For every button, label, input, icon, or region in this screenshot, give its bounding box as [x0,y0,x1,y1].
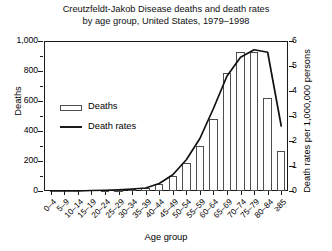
legend-line-death-rates [60,126,82,128]
y-tick-label-right: 6 [292,35,308,45]
y-tick-label-left: 200 [0,155,38,165]
y-tick-mark-left [38,161,43,162]
x-tick-mark [213,191,214,195]
bar [223,73,231,192]
x-tick-mark [64,191,65,195]
bar [236,52,244,192]
legend-swatch-deaths [60,105,82,111]
y-tick-mark-right [289,66,294,67]
y-tick-mark-left-minor [40,56,43,57]
bar [128,189,136,191]
y-tick-mark-left [38,101,43,102]
y-tick-label-left: 0 [0,185,38,195]
y-tick-mark-right [289,116,294,117]
legend-label-death-rates: Death rates [88,121,136,131]
chart-title-line-1: Creutzfeldt-Jakob Disease deaths and dea… [0,3,332,15]
bar [101,190,109,192]
y-tick-label-left: 800 [0,65,38,75]
y-tick-mark-right [289,141,294,142]
y-tick-label-right: 1 [292,160,308,170]
x-tick-mark [51,191,52,195]
bar [250,52,258,192]
y-tick-label-left: 600 [0,95,38,105]
y-tick-mark-left-minor [40,176,43,177]
y-tick-label-right: 3 [292,110,308,120]
chart-title-line-2: by age group, United States, 1979–1998 [0,15,332,27]
y-tick-mark-right [289,41,294,42]
bar [182,163,190,192]
x-tick-mark [78,191,79,195]
y-tick-mark-right [289,191,294,192]
x-tick-mark [186,191,187,195]
x-tick-mark [268,191,269,195]
x-tick-mark [91,191,92,195]
bar [114,190,122,192]
y-tick-label-left: 400 [0,125,38,135]
y-tick-label-right: 2 [292,135,308,145]
bar [263,98,271,191]
x-tick-mark [159,191,160,195]
y-tick-mark-right [289,91,294,92]
y-tick-mark-left-minor [40,86,43,87]
legend-label-deaths: Deaths [88,101,117,111]
x-tick-mark [254,191,255,195]
bar [196,146,204,191]
x-tick-mark [281,191,282,195]
y-tick-mark-left-minor [40,116,43,117]
y-tick-label-right: 0 [292,185,308,195]
x-tick-mark [241,191,242,195]
y-tick-mark-left [38,71,43,72]
bar [155,184,163,191]
y-tick-label-right: 5 [292,60,308,70]
x-tick-mark [146,191,147,195]
y-tick-mark-left-minor [40,146,43,147]
bar [141,188,149,191]
y-tick-mark-left [38,191,43,192]
y-tick-mark-right [289,166,294,167]
x-tick-mark [227,191,228,195]
y-tick-mark-left [38,41,43,42]
bar [169,176,177,191]
bar [209,119,217,191]
bar [277,151,285,192]
chart-figure: Creutzfeldt-Jakob Disease deaths and dea… [0,0,332,251]
x-tick-mark [173,191,174,195]
x-tick-mark [200,191,201,195]
x-tick-mark [132,191,133,195]
y-tick-label-left: 1,000 [0,35,38,45]
chart-title: Creutzfeldt-Jakob Disease deaths and dea… [0,3,332,27]
y-tick-mark-left [38,131,43,132]
y-tick-label-right: 4 [292,85,308,95]
